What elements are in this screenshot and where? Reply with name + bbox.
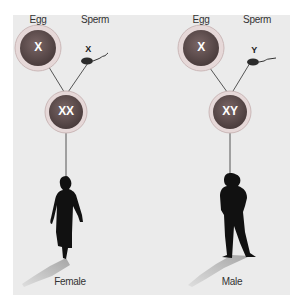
egg-to-zygote-line	[47, 64, 66, 95]
egg-chromosome: X	[197, 40, 205, 54]
sperm-label: Sperm	[243, 14, 271, 25]
sperm-to-zygote-line	[66, 63, 88, 95]
diagram-canvas	[0, 0, 303, 308]
woman-silhouette-icon	[50, 176, 83, 259]
zygote-chromosomes: XX	[58, 104, 73, 118]
egg-label: Egg	[193, 14, 210, 25]
man-silhouette-icon	[220, 173, 256, 258]
male-branch	[178, 25, 276, 287]
sperm-icon	[81, 53, 108, 65]
female-branch	[15, 25, 108, 287]
sperm-chromosome: Y	[251, 45, 257, 55]
sperm-label: Sperm	[81, 14, 109, 25]
female-label: Female	[54, 276, 86, 287]
sperm-chromosome: X	[85, 44, 91, 54]
egg-chromosome: X	[34, 40, 42, 54]
male-label: Male	[222, 276, 242, 287]
egg-label: Egg	[30, 14, 47, 25]
zygote-chromosomes: XY	[222, 104, 237, 118]
sperm-icon	[247, 58, 276, 66]
